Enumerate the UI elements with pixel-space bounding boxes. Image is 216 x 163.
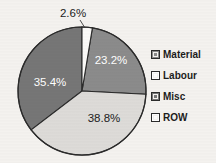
chart-legend: Material Labour Misc ROW (151, 48, 215, 124)
pie-chart-figure: 23.2% 38.8% 35.4% 2.6% Material Labour M… (0, 0, 216, 163)
legend-label-misc: Misc (163, 91, 185, 102)
legend-label-labour: Labour (163, 70, 197, 81)
legend-item-labour[interactable]: Labour (151, 69, 215, 82)
legend-item-material[interactable]: Material (151, 48, 215, 61)
slice-label-material: 23.2% (95, 54, 128, 66)
legend-item-misc[interactable]: Misc (151, 90, 215, 103)
slice-label-misc: 35.4% (34, 76, 67, 88)
legend-label-row: ROW (163, 112, 187, 123)
legend-swatch-misc (151, 92, 160, 101)
slice-label-row: 2.6% (60, 7, 86, 19)
legend-swatch-labour (151, 71, 160, 80)
legend-label-material: Material (163, 49, 201, 60)
legend-swatch-material (151, 50, 160, 59)
slice-label-labour: 38.8% (88, 112, 121, 124)
legend-item-row[interactable]: ROW (151, 111, 215, 124)
legend-swatch-row (151, 113, 160, 122)
